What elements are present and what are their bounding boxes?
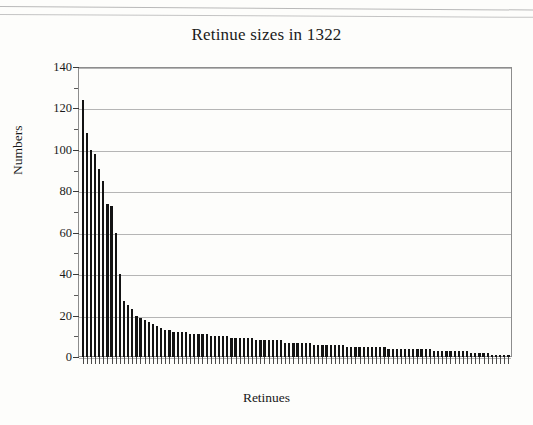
x-axis-tick [116,357,117,364]
x-axis-tick [326,357,327,364]
bar [367,347,369,357]
x-axis-tick [128,357,129,364]
x-axis-tick [161,357,162,364]
x-axis-tick-group [78,357,512,366]
x-axis-tick [190,357,191,364]
x-axis-tick [289,357,290,364]
x-axis-tick [293,357,294,364]
bar [400,349,402,357]
x-axis-tick [202,357,203,364]
x-axis-tick [211,357,212,364]
x-axis-tick [198,357,199,364]
x-axis-tick [372,357,373,364]
bar [375,347,377,357]
x-axis-tick [87,357,88,364]
x-axis-tick [504,357,505,364]
bar [168,330,170,357]
x-axis-tick [248,357,249,364]
bar [392,349,394,357]
bar [181,332,183,357]
y-axis-tick-label: 120 [38,101,72,116]
x-axis-tick [364,357,365,364]
bar [206,334,208,357]
x-axis-tick [260,357,261,364]
bar [354,347,356,357]
x-axis-tick [426,357,427,364]
bar-chart-figure: Retinue sizes in 1322 Numbers Retinues 0… [0,0,533,425]
bar [363,347,365,357]
bar [259,340,261,357]
bar [292,343,294,358]
x-axis-tick [500,357,501,364]
bar [139,318,141,357]
bar [222,336,224,357]
x-axis-tick [285,357,286,364]
x-axis-tick [393,357,394,364]
bar [123,301,125,357]
x-axis-tick [442,357,443,364]
x-axis-tick [331,357,332,364]
bar [127,305,129,357]
x-axis-tick [417,357,418,364]
x-axis-tick [236,357,237,364]
x-axis-tick [306,357,307,364]
x-axis-tick [277,357,278,364]
bar [243,338,245,357]
x-axis-tick [388,357,389,364]
bar [197,334,199,357]
bar [379,347,381,357]
bar [226,336,228,357]
x-axis-tick [335,357,336,364]
x-axis-tick [207,357,208,364]
x-axis-tick [140,357,141,364]
bar [263,340,265,357]
x-axis-tick [227,357,228,364]
x-axis-tick [409,357,410,364]
x-axis-tick [178,357,179,364]
bar [408,349,410,357]
bar [387,349,389,357]
bar [420,349,422,357]
bar [239,338,241,357]
bar [90,150,92,357]
x-axis-tick [397,357,398,364]
bar [234,338,236,357]
x-axis-tick [355,357,356,364]
x-axis-title: Retinues [0,390,533,406]
x-axis-tick [269,357,270,364]
x-axis-tick [264,357,265,364]
x-axis-tick [182,357,183,364]
x-axis-tick [492,357,493,364]
bar [160,328,162,357]
bar [230,338,232,357]
x-axis-tick [165,357,166,364]
bar [94,154,96,357]
bar [193,334,195,357]
bar [144,320,146,357]
bar [346,347,348,357]
x-axis-tick [107,357,108,364]
x-axis-tick [91,357,92,364]
x-axis-tick [360,357,361,364]
x-axis-tick [351,357,352,364]
x-axis-tick [136,357,137,364]
bar [313,345,315,357]
x-axis-tick [339,357,340,364]
bar [330,345,332,357]
y-axis-minor-tick-group [0,67,10,357]
x-axis-tick [169,357,170,364]
x-axis-tick [368,357,369,364]
x-axis-tick [302,357,303,364]
x-axis-tick [273,357,274,364]
bar [177,332,179,357]
y-axis-tick-label: 40 [38,267,72,282]
bar [338,345,340,357]
bar [280,340,282,357]
x-axis-tick [153,357,154,364]
bar [404,349,406,357]
bar [255,340,257,357]
x-axis-tick [322,357,323,364]
bar [350,347,352,357]
x-axis-tick [318,357,319,364]
x-axis-tick [240,357,241,364]
